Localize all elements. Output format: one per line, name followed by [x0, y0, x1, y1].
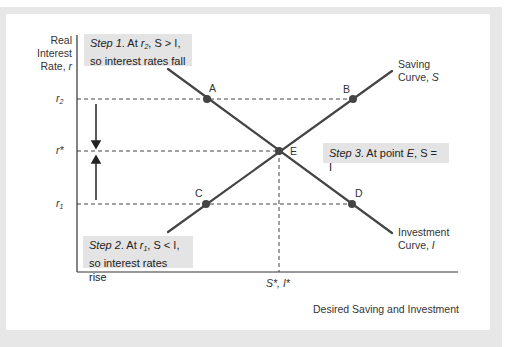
point-d-label: D [355, 187, 363, 200]
tick-r2: r2 [56, 92, 63, 108]
tick-r2-sub: 2 [60, 98, 64, 105]
point-c-label: C [195, 187, 203, 200]
step1-lead: Step 1 [90, 37, 122, 49]
saving-label-line1: Saving [398, 58, 439, 71]
step3-lead: Step 3 [329, 147, 361, 159]
y-label-line3: Rate, [40, 60, 68, 72]
point-b-label: B [343, 83, 350, 96]
step2-lead: Step 2 [89, 239, 121, 251]
tick-sstar-istar: S*, I* [266, 277, 290, 290]
step1-annotation: Step 1. At r2, S > I, so interest rates … [84, 34, 192, 66]
chart-plot [0, 0, 520, 347]
y-axis-label: Real Interest Rate, r [30, 34, 72, 73]
point-c [202, 200, 210, 208]
saving-label-line2: Curve, [398, 71, 432, 83]
step2-text-b: , S < I, [147, 239, 179, 251]
y-label-line1: Real [30, 34, 72, 47]
saving-var: S [432, 71, 439, 83]
up-arrow-head [92, 156, 100, 163]
tick-r1-sub: 1 [60, 203, 64, 210]
investment-var: I [432, 239, 435, 251]
step1-text-a: . At [122, 37, 141, 49]
step2-annotation: Step 2. At r1, S < I, so interest rates … [83, 236, 193, 268]
x-axis-label: Desired Saving and Investment [313, 303, 459, 316]
adjustment-arrows [92, 104, 100, 200]
step1-text-b: , S > I, [148, 37, 180, 49]
investment-curve-label: Investment Curve, I [398, 226, 449, 252]
down-arrow-head [92, 141, 100, 148]
step3-annotation: Step 3. At point E, S = I [323, 143, 449, 163]
y-label-var: r [69, 60, 73, 72]
point-a-label: A [209, 82, 216, 95]
step2-text-a: . At [121, 239, 140, 251]
investment-label-line1: Investment [398, 226, 449, 239]
tick-r1: r1 [56, 197, 63, 213]
step3-e: E [407, 147, 414, 159]
point-d [348, 200, 356, 208]
investment-label-line2: Curve, [398, 239, 432, 251]
point-a [203, 95, 211, 103]
tick-rstar: r* [56, 144, 64, 157]
saving-curve-label: Saving Curve, S [398, 58, 439, 84]
step1-line2: so interest rates fall [90, 54, 186, 68]
point-e-label: E [290, 145, 297, 158]
step2-line2: so interest rates rise [89, 256, 187, 284]
step3-text-a: . At point [361, 147, 407, 159]
y-label-line2: Interest [30, 47, 72, 60]
point-e [275, 147, 283, 155]
point-b [349, 95, 357, 103]
